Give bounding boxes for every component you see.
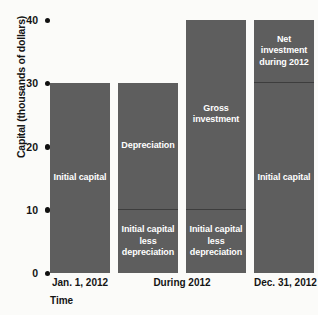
x-label-dec-31-2012: Dec. 31, 2012 bbox=[254, 277, 314, 288]
capital-accumulation-bar-chart: Capital (thousands of dollars) 40 30 20 … bbox=[0, 0, 318, 315]
segment-net-investment-during-2012: Net investment during 2012 bbox=[254, 20, 314, 83]
x-axis-labels: Jan. 1, 2012 During 2012 Dec. 31, 2012 bbox=[50, 277, 312, 291]
segment-label: Initial capital bbox=[53, 172, 106, 184]
segment-gross-investment: Gross investment bbox=[186, 20, 246, 210]
segment-label: Initial capital bbox=[257, 172, 310, 184]
bar-dec-31-2012: Net investment during 2012 Initial capit… bbox=[254, 20, 314, 273]
segment-initial-capital: Initial capital bbox=[50, 83, 110, 273]
y-tick-label-20: 20 bbox=[26, 141, 38, 153]
y-tick-40: 40 bbox=[14, 14, 50, 26]
y-tick-30: 30 bbox=[14, 77, 50, 89]
x-axis-title: Time bbox=[50, 295, 73, 306]
segment-label: Initial capital less depreciation bbox=[188, 224, 244, 259]
segment-label: Net investment during 2012 bbox=[256, 34, 312, 69]
y-tick-label-10: 10 bbox=[26, 204, 38, 216]
segment-depreciation: Depreciation bbox=[118, 83, 178, 210]
segment-label: Gross investment bbox=[188, 103, 244, 126]
segment-label: Initial capital less depreciation bbox=[120, 224, 176, 259]
bar-during-2012-gross-investment: Gross investment Initial capital less de… bbox=[186, 20, 246, 273]
segment-initial-capital: Initial capital bbox=[254, 83, 314, 273]
y-tick-0: 0 bbox=[14, 267, 50, 279]
y-tick-20: 20 bbox=[14, 141, 50, 153]
bar-during-2012-depreciation: Depreciation Initial capital less deprec… bbox=[118, 83, 178, 273]
plot-area: Initial capital Depreciation Initial cap… bbox=[50, 20, 310, 273]
x-label-during-2012: During 2012 bbox=[152, 277, 212, 288]
bar-jan-1-2012: Initial capital bbox=[50, 83, 110, 273]
y-tick-label-40: 40 bbox=[26, 14, 38, 26]
segment-label: Depreciation bbox=[121, 140, 174, 152]
segment-initial-capital-less-depreciation: Initial capital less depreciation bbox=[186, 210, 246, 273]
y-tick-10: 10 bbox=[14, 204, 50, 216]
y-tick-label-0: 0 bbox=[32, 267, 38, 279]
y-axis-title: Capital (thousands of dollars) bbox=[15, 0, 29, 187]
y-tick-label-30: 30 bbox=[26, 77, 38, 89]
segment-initial-capital-less-depreciation: Initial capital less depreciation bbox=[118, 210, 178, 273]
x-label-jan-1-2012: Jan. 1, 2012 bbox=[50, 277, 110, 288]
